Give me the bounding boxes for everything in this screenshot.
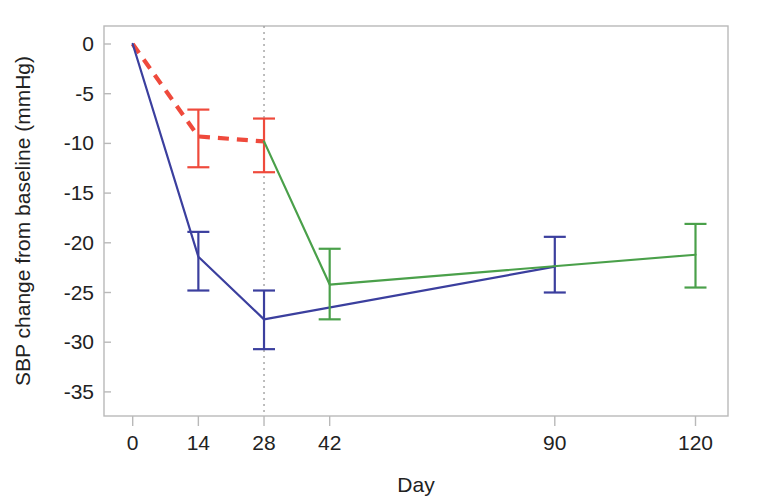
x-axis-tick-label: 0 [127,431,139,454]
sbp-change-line-chart: 0-5-10-15-20-25-30-35 014284290120 Day S… [0,0,758,501]
y-axis-tick-label: -10 [64,131,94,154]
plot-frame [104,26,728,416]
x-axis-title: Day [397,473,435,496]
series-blue-solid-error-bar [253,291,275,350]
x-axis-tick-label: 120 [678,431,713,454]
y-axis-tick-label: -25 [64,281,94,304]
y-axis-tick-label: -35 [64,380,94,403]
x-axis: 014284290120 [127,416,713,454]
y-axis-title: SBP change from baseline (mmHg) [11,56,34,386]
series-blue-solid [133,44,566,349]
chart-series [133,44,707,349]
series-red-dashed-error-bar [253,119,275,173]
x-axis-tick-label: 14 [187,431,211,454]
y-axis-tick-label: -5 [75,82,94,105]
x-axis-tick-label: 42 [318,431,341,454]
x-axis-tick-label: 90 [543,431,566,454]
y-axis-tick-label: -30 [64,330,94,353]
y-axis-tick-label: -20 [64,231,94,254]
series-red-dashed [133,44,275,172]
series-green-solid [264,141,706,319]
series-blue-solid-error-bar [187,232,209,291]
chart-root: 0-5-10-15-20-25-30-35 014284290120 Day S… [0,0,758,501]
series-blue-solid-line [133,44,555,319]
y-axis-tick-label: 0 [82,32,94,55]
x-axis-tick-label: 28 [252,431,275,454]
y-axis-tick-label: -15 [64,181,94,204]
